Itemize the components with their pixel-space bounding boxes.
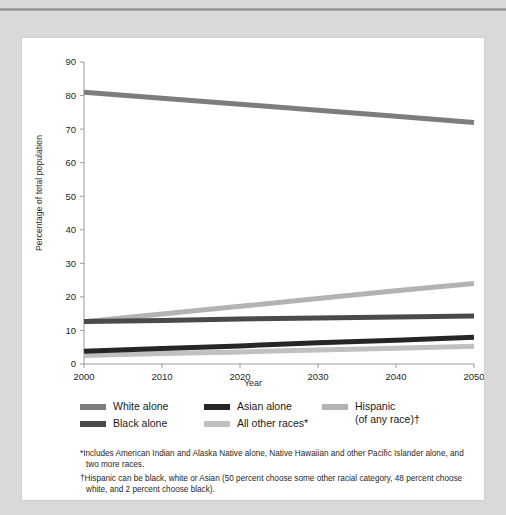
svg-text:90: 90	[65, 56, 76, 67]
footnotes: *Includes American Indian and Alaska Nat…	[80, 448, 475, 498]
legend-column-1: White alone Black alone	[80, 400, 168, 434]
legend-column-3: Hispanic (of any race)†	[322, 400, 420, 417]
svg-text:50: 50	[65, 191, 76, 202]
legend-swatch-all-other-races	[204, 421, 230, 427]
svg-text:2000: 2000	[73, 371, 94, 382]
svg-text:40: 40	[65, 224, 76, 235]
legend-swatch-white-alone	[80, 404, 106, 410]
svg-text:2050: 2050	[463, 371, 484, 382]
svg-text:2010: 2010	[151, 371, 172, 382]
plot-area: Percentage of total population Year 0102…	[22, 38, 484, 388]
chart-legend: White alone Black alone Asian alone All …	[22, 400, 484, 444]
figure-card: Percentage of total population Year 0102…	[22, 38, 484, 500]
legend-label-black-alone: Black alone	[113, 417, 167, 430]
legend-item-hispanic[interactable]: Hispanic (of any race)†	[322, 400, 420, 417]
legend-label-asian-alone: Asian alone	[237, 400, 292, 413]
page-top-rule	[0, 8, 506, 11]
legend-swatch-hispanic	[322, 404, 348, 410]
footnote-1-text: Includes American Indian and Alaska Nati…	[83, 449, 464, 469]
legend-label-all-other-races: All other races*	[237, 417, 308, 430]
legend-swatch-asian-alone	[204, 404, 230, 410]
footnote-1: *Includes American Indian and Alaska Nat…	[80, 448, 475, 470]
svg-text:60: 60	[65, 157, 76, 168]
legend-label-hispanic-line1: Hispanic	[355, 400, 420, 413]
svg-text:70: 70	[65, 124, 76, 135]
svg-text:10: 10	[65, 325, 76, 336]
svg-text:20: 20	[65, 291, 76, 302]
svg-text:30: 30	[65, 258, 76, 269]
svg-text:2040: 2040	[385, 371, 406, 382]
footnote-2-text: Hispanic can be black, white or Asian (5…	[85, 474, 463, 494]
legend-item-all-other-races[interactable]: All other races*	[204, 417, 308, 434]
legend-column-2: Asian alone All other races*	[204, 400, 308, 434]
legend-item-white-alone[interactable]: White alone	[80, 400, 168, 417]
svg-text:2030: 2030	[307, 371, 328, 382]
legend-swatch-black-alone	[80, 421, 106, 427]
svg-text:2020: 2020	[229, 371, 250, 382]
legend-item-black-alone[interactable]: Black alone	[80, 417, 168, 434]
svg-text:0: 0	[71, 358, 76, 369]
legend-item-asian-alone[interactable]: Asian alone	[204, 400, 308, 417]
legend-label-white-alone: White alone	[113, 400, 168, 413]
svg-text:80: 80	[65, 90, 76, 101]
footnote-2: †Hispanic can be black, white or Asian (…	[80, 473, 475, 495]
line-chart-svg: 0102030405060708090200020102020203020402…	[22, 38, 484, 388]
legend-label-hispanic-line2: (of any race)†	[355, 413, 420, 426]
